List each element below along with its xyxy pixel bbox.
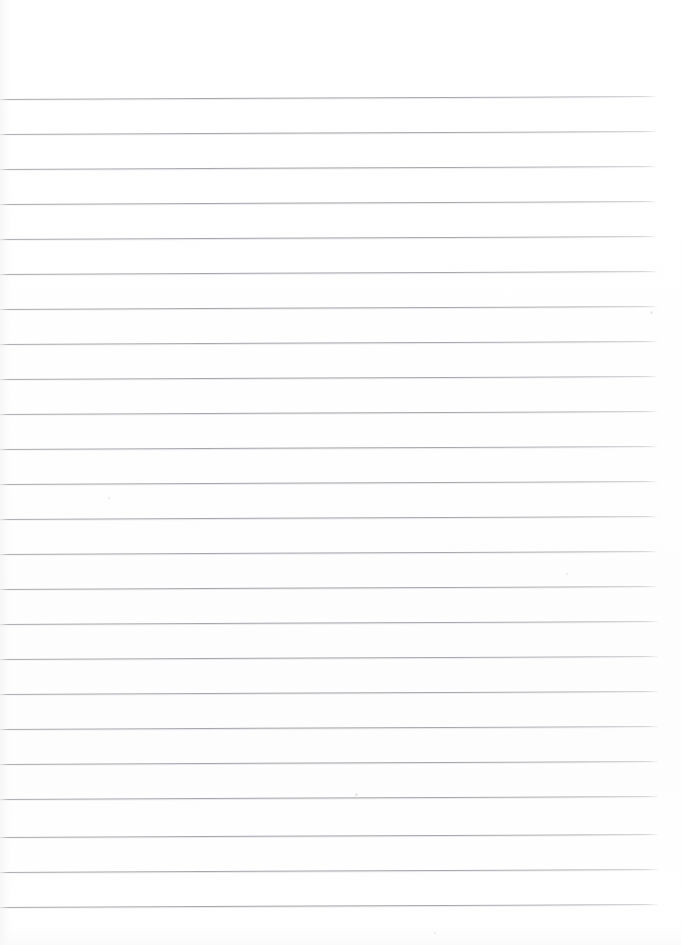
ruled-line bbox=[0, 481, 657, 485]
ruled-line bbox=[0, 271, 657, 275]
scan-speck bbox=[650, 311, 653, 314]
ruled-lines-layer bbox=[0, 0, 681, 945]
ruled-line bbox=[0, 551, 657, 555]
ruled-line bbox=[0, 446, 657, 450]
ruled-line bbox=[0, 869, 658, 873]
scan-speck bbox=[108, 497, 110, 499]
ruled-line bbox=[0, 761, 658, 765]
ruled-line bbox=[0, 904, 658, 908]
ruled-line bbox=[0, 131, 656, 135]
ruled-line bbox=[0, 201, 656, 205]
scanned-paper-page bbox=[0, 0, 681, 945]
ruled-line bbox=[0, 656, 658, 660]
ruled-line bbox=[0, 586, 657, 590]
ruled-line bbox=[0, 796, 658, 800]
scan-speck bbox=[355, 793, 358, 796]
ruled-line bbox=[0, 166, 656, 170]
ruled-line bbox=[0, 691, 658, 695]
ruled-line bbox=[0, 621, 658, 625]
ruled-line bbox=[0, 411, 657, 415]
scan-speck bbox=[566, 573, 568, 575]
ruled-line bbox=[0, 236, 656, 240]
ruled-line bbox=[0, 834, 658, 838]
ruled-line bbox=[0, 306, 657, 310]
ruled-line bbox=[0, 96, 656, 100]
scan-speck bbox=[434, 932, 436, 934]
ruled-line bbox=[0, 341, 657, 345]
ruled-line bbox=[0, 516, 657, 520]
ruled-line bbox=[0, 726, 658, 730]
ruled-line bbox=[0, 376, 657, 380]
